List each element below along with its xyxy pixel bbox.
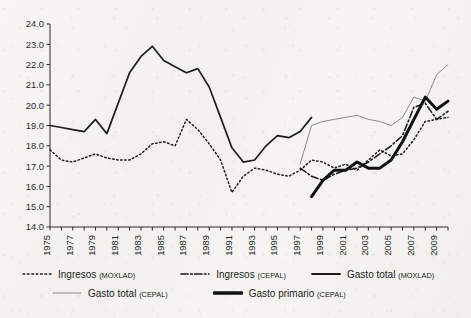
chart-series-group (50, 46, 448, 196)
svg-text:1981: 1981 (109, 235, 120, 256)
legend-label-gasto-primario-cepal: Gasto primario (CEPAL) (249, 288, 346, 299)
svg-text:1997: 1997 (291, 235, 302, 256)
svg-text:21.0: 21.0 (26, 79, 44, 90)
svg-text:18.0: 18.0 (26, 140, 44, 151)
svg-text:1991: 1991 (223, 235, 234, 256)
svg-text:22.0: 22.0 (26, 59, 44, 70)
svg-text:2007: 2007 (405, 235, 416, 256)
svg-text:2001: 2001 (337, 235, 348, 256)
legend-item-gasto-total-cepal[interactable]: Gasto total (CEPAL) (52, 287, 168, 299)
series-line-gasto-total-moxlad (50, 46, 312, 162)
legend-swatch-dotted (22, 268, 52, 280)
series-line-gasto-primario-cepal (312, 97, 448, 196)
y-axis-ticks: 14.015.016.017.018.019.020.021.022.023.0… (26, 18, 50, 232)
svg-text:1979: 1979 (86, 235, 97, 256)
svg-text:19.0: 19.0 (26, 120, 44, 131)
svg-text:23.0: 23.0 (26, 39, 44, 50)
legend-row: Gasto total (CEPAL)Gasto primario (CEPAL… (22, 287, 462, 299)
legend-item-ingresos-cepal[interactable]: Ingresos (CEPAL) (180, 268, 286, 280)
svg-text:24.0: 24.0 (26, 18, 44, 29)
legend-swatch-thick (213, 287, 243, 299)
svg-text:2005: 2005 (382, 235, 393, 256)
svg-text:16.0: 16.0 (26, 181, 44, 192)
svg-text:1989: 1989 (200, 235, 211, 256)
svg-text:1977: 1977 (64, 235, 75, 256)
svg-text:2009: 2009 (428, 235, 439, 256)
legend-label-ingresos-cepal: Ingresos (CEPAL) (216, 269, 286, 280)
legend-label-ingresos-moxlad: Ingresos (MOXLAD) (58, 269, 135, 280)
svg-text:1975: 1975 (41, 235, 52, 256)
svg-text:14.0: 14.0 (26, 221, 44, 232)
legend-item-gasto-total-moxlad[interactable]: Gasto total (MOXLAD) (311, 268, 434, 280)
svg-text:1987: 1987 (177, 235, 188, 256)
legend-item-gasto-primario-cepal[interactable]: Gasto primario (CEPAL) (213, 287, 346, 299)
svg-text:1983: 1983 (132, 235, 143, 256)
chart-legend: Ingresos (MOXLAD)Ingresos (CEPAL)Gasto t… (22, 268, 462, 306)
svg-text:1985: 1985 (155, 235, 166, 256)
legend-item-ingresos-moxlad[interactable]: Ingresos (MOXLAD) (22, 268, 135, 280)
svg-text:2003: 2003 (359, 235, 370, 256)
legend-swatch-thin (52, 287, 82, 299)
series-line-ingresos-moxlad (50, 117, 448, 192)
series-line-gasto-total-cepal (300, 65, 448, 164)
legend-swatch-solid (311, 268, 341, 280)
svg-text:15.0: 15.0 (26, 201, 44, 212)
x-axis-ticks: 1975197719791981198319851987198919911993… (41, 227, 448, 256)
svg-text:1995: 1995 (268, 235, 279, 256)
legend-label-gasto-total-cepal: Gasto total (CEPAL) (88, 288, 168, 299)
svg-text:1993: 1993 (246, 235, 257, 256)
legend-swatch-dash-dot (180, 268, 210, 280)
legend-row: Ingresos (MOXLAD)Ingresos (CEPAL)Gasto t… (22, 268, 462, 280)
legend-label-gasto-total-moxlad: Gasto total (MOXLAD) (347, 269, 434, 280)
svg-text:1999: 1999 (314, 235, 325, 256)
svg-text:17.0: 17.0 (26, 161, 44, 172)
svg-text:20.0: 20.0 (26, 100, 44, 111)
